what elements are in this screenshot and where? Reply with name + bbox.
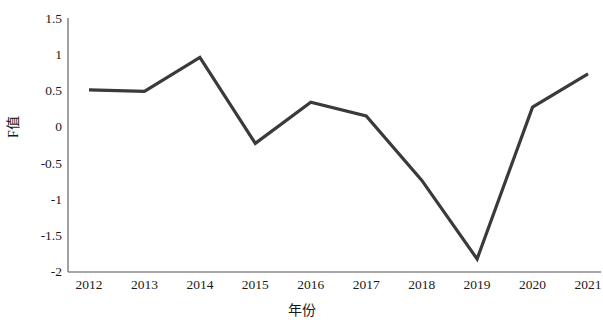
plot-area xyxy=(0,0,603,322)
x-tick-label: 2015 xyxy=(225,277,285,293)
x-tick-label: 2018 xyxy=(392,277,452,293)
x-tick-label: 2020 xyxy=(503,277,563,293)
x-axis-title: 年份 xyxy=(0,299,603,319)
x-tick-label: 2016 xyxy=(281,277,341,293)
axis-lines xyxy=(68,18,601,272)
line-chart: F值 1.510.50-0.5-1-1.5-2 2012201320142015… xyxy=(0,0,603,322)
x-tick-label: 2013 xyxy=(114,277,174,293)
x-tick-label: 2021 xyxy=(558,277,603,293)
data-series-line xyxy=(89,57,588,259)
x-tick-label: 2014 xyxy=(170,277,230,293)
x-tick-label: 2017 xyxy=(336,277,396,293)
x-tick-label: 2019 xyxy=(447,277,507,293)
x-tick-label: 2012 xyxy=(59,277,119,293)
